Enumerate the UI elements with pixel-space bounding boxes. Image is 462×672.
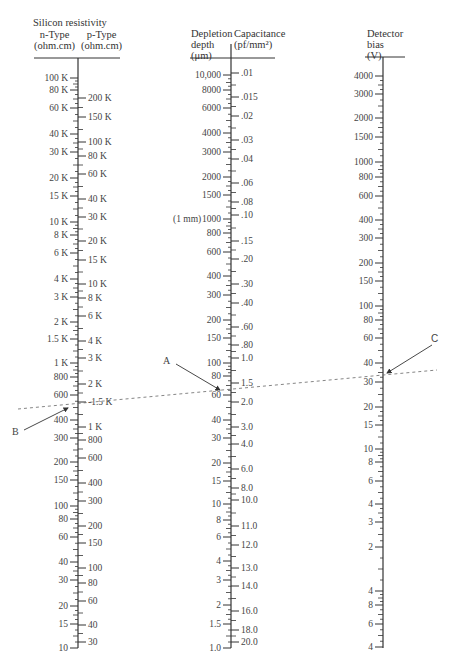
bias-left-tick-label: 4000 bbox=[354, 71, 373, 81]
depletion-left-tick-label: 100 bbox=[207, 358, 221, 368]
n-type-header: n-Type (ohm.cm) bbox=[34, 29, 75, 51]
resistivity-left-tick-label: 60 K bbox=[49, 103, 68, 113]
resistivity-right-tick-label: 100 K bbox=[88, 137, 112, 147]
depletion-left-tick-label: 3000 bbox=[202, 147, 221, 157]
depletion-right-tick-label: 20.0 bbox=[241, 637, 258, 647]
resistivity-title: Silicon resistivity bbox=[33, 17, 107, 28]
depletion-left-tick-label: 1.5 bbox=[209, 619, 221, 629]
bias-left-tick-label: 8 bbox=[368, 457, 373, 467]
resistivity-left-tick-label: 40 bbox=[59, 557, 69, 567]
bias-left-tick-label: 150 bbox=[359, 276, 373, 286]
resistivity-left-tick-label: 80 K bbox=[49, 85, 68, 95]
depletion-left-tick-label: 6000 bbox=[202, 103, 221, 113]
resistivity-left-tick-label: 1 K bbox=[54, 358, 68, 368]
bias-left-tick-label: 30 bbox=[364, 377, 374, 387]
resistivity-right-tick-label: 10 K bbox=[88, 279, 107, 289]
depletion-left-tick-label: 30 bbox=[212, 433, 222, 443]
resistivity-right-tick-label: 3 K bbox=[88, 353, 102, 363]
resistivity-left-tick-label: 60 bbox=[59, 532, 69, 542]
resistivity-left-tick-label: 150 bbox=[54, 475, 68, 485]
depletion-right-tick-label: .80 bbox=[241, 340, 253, 350]
depletion-left-tick-label: 8 bbox=[216, 515, 221, 525]
depletion-left-tick-label: 6 bbox=[216, 532, 221, 542]
depletion-right-tick-label: 8.0 bbox=[241, 483, 253, 493]
depletion-right-tick-label: .03 bbox=[241, 135, 253, 145]
resistivity-left-tick-label: 10 bbox=[59, 643, 69, 653]
resistivity-right-tick-label: 8 K bbox=[88, 293, 102, 303]
bias-left-tick-label: 2 bbox=[368, 542, 373, 552]
bias-left-tick-label: 80 bbox=[364, 315, 374, 325]
resistivity-right-tick-label: 15 K bbox=[88, 255, 107, 265]
resistivity-right-tick-label: 200 K bbox=[88, 93, 112, 103]
resistivity-left-tick-label: 300 bbox=[54, 433, 68, 443]
depletion-right-tick-label: .10 bbox=[241, 210, 253, 220]
resistivity-left-tick-label: 40 K bbox=[49, 129, 68, 139]
annotation-label-c: C bbox=[431, 333, 438, 344]
bias-left-tick-label: 20 bbox=[364, 402, 374, 412]
depletion-left-tick-label: 8000 bbox=[202, 85, 221, 95]
resistivity-left-tick-label: 10 K bbox=[49, 217, 68, 227]
bias-left-tick-label: 10 bbox=[364, 444, 374, 454]
resistivity-right-tick-label: 6 K bbox=[88, 311, 102, 321]
depletion-left-tick-label: 40 bbox=[212, 415, 222, 425]
depletion-right-tick-label: .15 bbox=[241, 236, 253, 246]
depletion-left-tick-label: 4 bbox=[216, 556, 221, 566]
bias-unit: (V) bbox=[367, 50, 403, 61]
resistivity-left-tick-label: 400 bbox=[54, 415, 68, 425]
depletion-right-tick-label: .015 bbox=[241, 92, 258, 102]
annotation-arrow-c bbox=[387, 345, 432, 373]
depletion-left-tick-label: 60 bbox=[212, 390, 222, 400]
bias-left-tick-label: 800 bbox=[359, 172, 373, 182]
resistivity-left-tick-label: 100 K bbox=[45, 73, 69, 83]
resistivity-right-tick-label: 40 K bbox=[88, 194, 107, 204]
depletion-left-tick-label: 2 bbox=[216, 600, 221, 610]
capacitance-unit: (pf/mm²) bbox=[234, 39, 285, 50]
capacitance-header: Capacitance (pf/mm²) bbox=[234, 28, 285, 50]
depletion-left-tick-label: 3 bbox=[216, 575, 221, 585]
depletion-right-tick-label: 12.0 bbox=[241, 540, 258, 550]
bias-left-tick-label: 60 bbox=[364, 333, 374, 343]
resistivity-left-tick-label: 80 bbox=[59, 514, 69, 524]
depletion-left-tick-label: 200 bbox=[207, 315, 221, 325]
resistivity-right-tick-label: 2 K bbox=[88, 379, 102, 389]
resistivity-right-tick-label: 200 bbox=[88, 521, 102, 531]
depletion-left-tick-label: 1500 bbox=[202, 190, 221, 200]
depletion-right-tick-label: .60 bbox=[241, 322, 253, 332]
resistivity-left-tick-label: 30 bbox=[59, 575, 69, 585]
n-type-label: n-Type bbox=[34, 29, 75, 40]
bias-left-tick-label: 400 bbox=[359, 215, 373, 225]
bias-left-tick-label: 4 bbox=[368, 642, 373, 652]
depletion-right-tick-label: 13.0 bbox=[241, 563, 258, 573]
depletion-left-tick-label: 600 bbox=[207, 247, 221, 257]
depletion-left-tick-label: 150 bbox=[207, 333, 221, 343]
resistivity-right-tick-label: 1 K bbox=[88, 422, 102, 432]
depletion-right-tick-label: .01 bbox=[241, 68, 253, 78]
bias-left-tick-label: 3000 bbox=[354, 89, 373, 99]
depletion-left-tick-label: 400 bbox=[207, 271, 221, 281]
depth-unit: (μm) bbox=[191, 50, 232, 61]
resistivity-left-tick-label: 800 bbox=[54, 372, 68, 382]
bias-left-tick-label: 600 bbox=[359, 191, 373, 201]
depletion-left-tick-label: 300 bbox=[207, 290, 221, 300]
p-type-unit: (ohm.cm) bbox=[81, 40, 122, 51]
resistivity-left-tick-label: 4 K bbox=[54, 274, 68, 284]
depletion-left-tick-label: 10,000 bbox=[195, 70, 221, 80]
nomogram-figure: Silicon resistivity n-Type (ohm.cm) p-Ty… bbox=[0, 0, 462, 672]
depletion-right-tick-label: 10.0 bbox=[241, 495, 258, 505]
resistivity-right-tick-label: 4 K bbox=[88, 336, 102, 346]
bias-left-tick-label: 4 bbox=[368, 586, 373, 596]
depletion-right-tick-label: 3.0 bbox=[241, 422, 253, 432]
depth-label: depth bbox=[191, 39, 232, 50]
bias-left-tick-label: 40 bbox=[364, 358, 374, 368]
depletion-left-tick-label: 10 bbox=[212, 499, 222, 509]
bias-header: Detector bias (V) bbox=[367, 28, 403, 61]
resistivity-right-tick-label: 60 K bbox=[88, 169, 107, 179]
detector-label: Detector bbox=[367, 28, 403, 39]
depletion-right-tick-label: 2.0 bbox=[241, 397, 253, 407]
depletion-left-tick-label: 4000 bbox=[202, 128, 221, 138]
depletion-right-tick-label: 6.0 bbox=[241, 464, 253, 474]
resistivity-left-tick-label: 100 bbox=[54, 501, 68, 511]
resistivity-left-tick-label: 20 K bbox=[49, 173, 68, 183]
bias-left-tick-label: 100 bbox=[359, 301, 373, 311]
bias-left-tick-label: 300 bbox=[359, 233, 373, 243]
